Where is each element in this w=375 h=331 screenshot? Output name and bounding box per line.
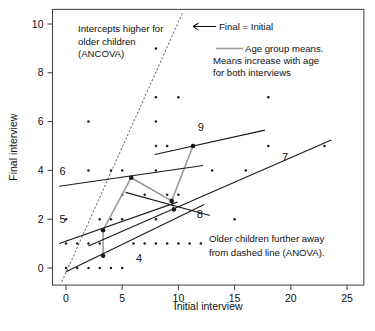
data-point — [76, 242, 79, 245]
data-point — [177, 96, 180, 99]
age-group-label-7: 7 — [282, 151, 288, 163]
annotations: Intercepts higher forolder children(ANCO… — [78, 21, 325, 258]
y-tick-label-4: 4 — [38, 164, 44, 176]
data-point — [177, 242, 180, 245]
y-axis-title: Final interview — [7, 113, 19, 181]
age-group-label-8: 8 — [197, 208, 203, 220]
data-point — [166, 194, 169, 197]
data-point — [65, 242, 68, 245]
data-point — [65, 267, 68, 270]
data-point — [267, 145, 270, 148]
data-point — [121, 267, 124, 270]
data-point — [155, 96, 158, 99]
x-axis-title: Initial interview — [174, 300, 243, 312]
y-tick-label-0: 0 — [38, 262, 44, 274]
x-tick-label-5: 5 — [119, 292, 125, 304]
mean-point-age-6 — [129, 175, 134, 180]
intercept-note-line-1: Intercepts higher for — [78, 23, 164, 34]
data-point — [110, 169, 113, 172]
data-point — [155, 145, 158, 148]
anova-note-line-2: from dashed line (ANOVA). — [209, 247, 325, 258]
identity-line-label: Final = Initial — [219, 21, 273, 32]
mean-connector-polyline — [103, 146, 193, 256]
data-point — [267, 96, 270, 99]
data-point — [155, 242, 158, 245]
data-point — [177, 194, 180, 197]
data-point — [110, 267, 113, 270]
y-tick-label-10: 10 — [32, 18, 44, 30]
x-tick-label-25: 25 — [341, 292, 353, 304]
mean-point-age-8 — [169, 199, 174, 204]
y-tick-label-8: 8 — [38, 66, 44, 78]
mean-point-age-5 — [101, 228, 106, 233]
data-point — [87, 242, 90, 245]
mean-point-age-7 — [172, 207, 177, 212]
means-note-line-2: Means increase with age — [213, 55, 319, 66]
data-point — [323, 145, 326, 148]
age-group-label-9: 9 — [198, 121, 204, 133]
regression-line-age-9 — [155, 130, 265, 154]
data-point — [121, 218, 124, 221]
data-point — [245, 169, 248, 172]
intercept-note-line-2: older children — [78, 36, 136, 47]
means-note-line-3: for both interviews — [213, 67, 291, 78]
age-group-label-4: 4 — [136, 252, 142, 264]
data-point — [121, 169, 124, 172]
regression-line-age-7 — [88, 140, 331, 246]
age-group-label-5: 5 — [60, 213, 66, 225]
data-point — [166, 145, 169, 148]
age-group-mean-connector — [103, 146, 193, 256]
data-point — [155, 47, 158, 50]
mean-point-age-9 — [191, 144, 196, 149]
intercept-note-line-3: (ANCOVA) — [78, 48, 124, 59]
regression-line-age-5 — [59, 202, 177, 243]
data-point — [87, 267, 90, 270]
data-point — [155, 120, 158, 123]
chart-root: 456789 Intercepts higher forolder childr… — [0, 0, 375, 331]
x-tick-label-0: 0 — [63, 292, 69, 304]
data-point — [166, 242, 169, 245]
means-note-line-1: Age group means. — [245, 43, 323, 54]
y-tick-label-6: 6 — [38, 115, 44, 127]
x-tick-label-20: 20 — [285, 292, 297, 304]
data-point — [98, 242, 101, 245]
age-group-mean-points — [101, 144, 196, 258]
data-point — [87, 120, 90, 123]
data-point — [155, 169, 158, 172]
data-point — [200, 242, 203, 245]
anova-note-line-1: Older children further away — [209, 233, 324, 244]
data-point — [87, 169, 90, 172]
scatter-plot: 456789 Intercepts higher forolder childr… — [0, 0, 375, 331]
data-point — [155, 218, 158, 221]
data-point — [132, 242, 135, 245]
mean-point-age-4 — [101, 254, 106, 259]
data-point — [188, 242, 191, 245]
data-point — [211, 169, 214, 172]
data-point — [98, 218, 101, 221]
data-point — [143, 194, 146, 197]
data-point — [143, 242, 146, 245]
data-point — [98, 267, 101, 270]
age-group-label-6: 6 — [60, 165, 66, 177]
y-tick-label-2: 2 — [38, 213, 44, 225]
data-point — [233, 218, 236, 221]
